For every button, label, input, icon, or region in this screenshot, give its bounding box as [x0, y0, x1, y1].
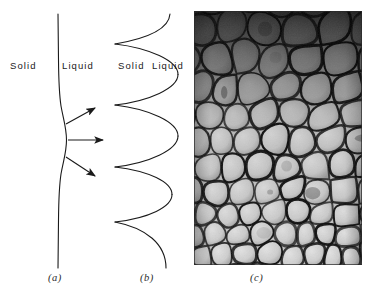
panel-a-label-liquid: Liquid — [62, 61, 94, 71]
cellular-structure-micrograph — [194, 11, 362, 265]
cell-arc-bottom-partial — [115, 222, 166, 268]
cell-arc-lower-1 — [115, 75, 178, 106]
panel-a-diagram — [0, 0, 110, 302]
cell-arc-upper-3 — [115, 167, 172, 195]
panel-a-label-solid: Solid — [10, 61, 37, 71]
growth-direction-arrows — [66, 108, 103, 176]
panel-a: Solid Liquid — [0, 0, 110, 302]
cell-arc-upper-2 — [115, 105, 178, 136]
cell-arc-lower-3 — [115, 195, 172, 223]
panel-b-label-liquid: Liquid — [152, 61, 184, 71]
cell-arc-top-partial — [115, 14, 170, 44]
caption-a: (a) — [48, 272, 62, 283]
solid-liquid-interface-planar — [58, 14, 67, 268]
cell-arc-lower-2 — [115, 136, 178, 167]
caption-c: (c) — [250, 272, 263, 283]
arrow-upper — [66, 108, 95, 124]
panel-b-diagram — [105, 0, 200, 302]
figure-cellular-solidification: Solid Liquid Solid Liquid — [0, 0, 380, 302]
arrow-lower — [66, 157, 95, 176]
micrograph-cells — [194, 11, 362, 265]
panel-b: Solid Liquid — [105, 0, 195, 302]
panel-b-label-solid: Solid — [118, 61, 145, 71]
cellular-interface — [115, 14, 178, 268]
caption-b: (b) — [140, 272, 154, 283]
